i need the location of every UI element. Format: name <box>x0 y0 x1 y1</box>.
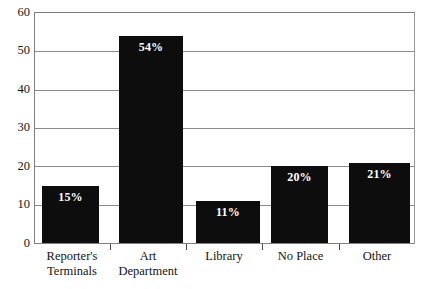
plot-area: 15% 54% 11% 20% 21% <box>34 12 415 244</box>
y-axis-tick-40: 40 <box>18 83 31 96</box>
x-axis-label-line-2: Terminals <box>34 264 110 279</box>
bar-label-other: 21% <box>349 167 410 182</box>
bar-reporters-terminals: 15% <box>42 186 99 244</box>
gridline-40 <box>35 90 414 91</box>
bar-label-reporters-terminals: 15% <box>42 190 99 205</box>
y-axis-tick-0: 0 <box>24 237 30 250</box>
x-axis-label-library: Library <box>186 249 262 264</box>
y-axis-tick-60: 60 <box>18 6 31 19</box>
x-axis-label-line-1: Art <box>140 249 157 263</box>
x-axis-label-line-2: Department <box>110 264 186 279</box>
y-axis-tick-50: 50 <box>18 44 31 57</box>
gridline-30 <box>35 128 414 129</box>
y-axis-tick-labels: 60 50 40 30 20 10 0 <box>0 0 34 289</box>
bar-label-library: 11% <box>196 205 260 220</box>
bar-chart: 60 50 40 30 20 10 0 15% 54% 11% 20% 21% <box>0 0 426 289</box>
y-axis-tick-20: 20 <box>18 160 31 173</box>
x-axis-label-other: Other <box>339 249 415 264</box>
gridline-50 <box>35 51 414 52</box>
x-axis-label-reporters-terminals: Reporter's Terminals <box>34 249 110 279</box>
x-axis-label-line-1: Library <box>205 249 242 263</box>
bar-art-department: 54% <box>119 36 183 243</box>
x-axis-label-line-1: Reporter's <box>47 249 98 263</box>
bar-other: 21% <box>349 163 410 244</box>
x-axis-label-art-department: Art Department <box>110 249 186 279</box>
x-axis-label-line-1: Other <box>363 249 391 263</box>
y-axis-tick-10: 10 <box>18 198 31 211</box>
bar-label-art-department: 54% <box>119 40 183 55</box>
y-axis-tick-30: 30 <box>18 121 31 134</box>
x-axis-label-no-place: No Place <box>262 249 339 264</box>
bar-library: 11% <box>196 201 260 243</box>
x-axis-label-line-1: No Place <box>278 249 323 263</box>
bar-label-no-place: 20% <box>271 170 328 185</box>
bar-no-place: 20% <box>271 166 328 243</box>
